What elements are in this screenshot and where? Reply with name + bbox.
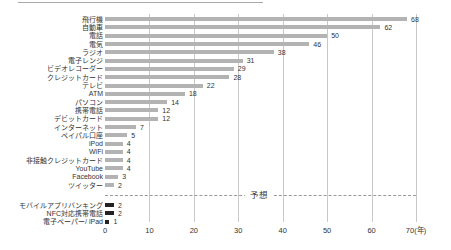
chart-row: 非接触クレジットカード4 [0,156,451,164]
value-label: 50 [331,32,339,39]
bar [105,59,243,63]
bar [105,42,309,46]
value-label: 4 [127,140,131,147]
top-divider-line [18,2,263,3]
category-label: ペイパル口座 [0,132,103,139]
chart-row: ペイパル口座5 [0,131,451,139]
category-label: 自動車 [0,24,103,31]
chart-row: iPod4 [0,139,451,147]
value-label: 4 [127,157,131,164]
value-label: 31 [247,57,255,64]
chart-row: ビデオレコーダー29 [0,65,451,73]
bar [105,50,274,54]
category-label: 電話 [0,32,103,39]
bar [105,211,114,215]
value-label: 2 [118,182,122,189]
value-label: 1 [113,218,117,225]
category-label: iPod [0,140,103,147]
category-label: 非接触クレジットカード [0,157,103,164]
bar [105,203,114,207]
x-tick-label: 0 [103,227,107,235]
value-label: 22 [207,82,215,89]
x-tick-label: 30 [234,227,242,235]
forecast-bar-rows: モバイルアプリバンキング2NFC対応携帯電話2電子ペーパー/ iPad1 [0,201,451,226]
value-label: 18 [189,90,197,97]
chart-row: Facebook3 [0,173,451,181]
x-tick-label: 60 [367,227,375,235]
bar [105,17,407,21]
forecast-annotation: 予想 [245,189,273,201]
bar [105,125,136,129]
bar [105,117,158,121]
bar [105,166,123,170]
category-label: モバイルアプリバンキング [0,202,103,209]
chart-row: パソコン14 [0,98,451,106]
x-tick-label: 20 [190,227,198,235]
category-label: 携帯電話 [0,107,103,114]
chart-row: 携帯電話12 [0,106,451,114]
bar [105,142,123,146]
value-label: 2 [118,210,122,217]
chart-row: 電子ペーパー/ iPad1 [0,218,451,226]
value-label: 4 [127,148,131,155]
chart-row: 電話50 [0,32,451,40]
chart-row: YouTube4 [0,164,451,172]
category-label: 飛行機 [0,16,103,23]
category-label: 電子レンジ [0,57,103,64]
bar [105,67,234,71]
chart-row: 自動車62 [0,23,451,31]
value-label: 4 [127,165,131,172]
bar [105,133,127,137]
value-label: 12 [162,115,170,122]
x-axis: 010203040506070(年) [105,227,416,239]
category-label: ビデオレコーダー [0,65,103,72]
x-tick-label: 10 [145,227,153,235]
value-label: 14 [171,99,179,106]
value-label: 3 [122,173,126,180]
value-label: 62 [384,24,392,31]
chart-row: 電子レンジ31 [0,56,451,64]
chart-row: ATM18 [0,90,451,98]
bar [105,108,158,112]
chart-row: インターネット7 [0,123,451,131]
category-label: インターネット [0,124,103,131]
x-tick-label: 40 [279,227,287,235]
chart-row: テレビ22 [0,81,451,89]
bar [105,25,380,29]
bar-chart-page: 飛行機68自動車62電話50電気46ラジオ38電子レンジ31ビデオレコーダー29… [0,0,451,250]
bar [105,34,327,38]
value-label: 38 [278,49,286,56]
value-label: 5 [131,132,135,139]
chart-row: WiFi4 [0,148,451,156]
chart-row: 飛行機68 [0,15,451,23]
category-label: WiFi [0,148,103,155]
chart-row: NFC対応携帯電話2 [0,209,451,217]
bar [105,100,167,104]
value-label: 12 [162,107,170,114]
x-tick-label: 70(年) [406,227,426,235]
category-label: 電子ペーパー/ iPad [0,218,103,225]
chart-row: モバイルアプリバンキング2 [0,201,451,209]
category-label: 電気 [0,41,103,48]
category-label: YouTube [0,165,103,172]
value-label: 2 [118,202,122,209]
chart-row: デビットカード12 [0,115,451,123]
value-label: 29 [238,65,246,72]
category-label: ツイッター [0,182,103,189]
value-label: 46 [313,41,321,48]
bar [105,75,229,79]
category-label: ラジオ [0,49,103,56]
forecast-separator: 予想 [105,189,416,201]
bar [105,183,114,187]
chart-row: ラジオ38 [0,48,451,56]
category-label: デビットカード [0,115,103,122]
category-label: NFC対応携帯電話 [0,210,103,217]
value-label: 68 [411,16,419,23]
value-label: 28 [233,74,241,81]
bar [105,220,109,224]
bar [105,92,185,96]
category-label: Facebook [0,173,103,180]
main-bar-rows: 飛行機68自動車62電話50電気46ラジオ38電子レンジ31ビデオレコーダー29… [0,15,451,189]
category-label: ATM [0,90,103,97]
chart-row: 電気46 [0,40,451,48]
